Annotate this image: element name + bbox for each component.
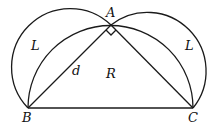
right-angle-marker bbox=[106, 30, 116, 35]
label-l-left: L bbox=[30, 38, 40, 53]
segment-ab bbox=[28, 25, 111, 108]
label-b: B bbox=[21, 110, 32, 125]
label-c: C bbox=[188, 110, 198, 125]
lune-diagram: A B C d R L L bbox=[0, 0, 223, 126]
label-r: R bbox=[105, 66, 116, 81]
label-d: d bbox=[72, 63, 80, 78]
label-a: A bbox=[105, 5, 115, 20]
label-l-right: L bbox=[184, 38, 194, 53]
segment-ac bbox=[111, 25, 193, 108]
arc-semicircle-ab bbox=[12, 9, 111, 108]
